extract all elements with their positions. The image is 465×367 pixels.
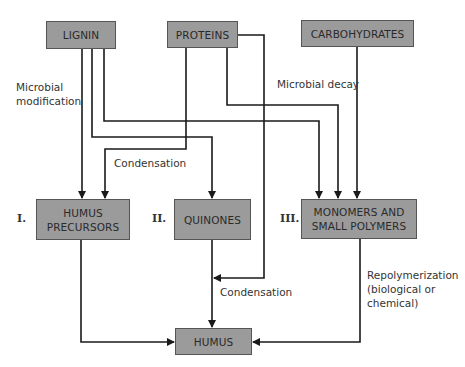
node-proteins-label: PROTEINS <box>176 28 229 42</box>
connector-lines <box>0 0 465 367</box>
label-microbial-modification-1: Microbial <box>16 80 81 94</box>
label-microbial-decay: Microbial decay <box>277 77 359 91</box>
node-carbohydrates-label: CARBOHYDRATES <box>311 27 405 41</box>
pathway-number-one: I. <box>17 212 26 225</box>
node-humus-precursors-label-1: HUMUS <box>63 206 103 220</box>
edge-proteins-to-humus-precursors <box>105 48 186 198</box>
node-monomers-label-1: MONOMERS AND <box>314 205 405 219</box>
label-condensation-lower: Condensation <box>220 285 292 299</box>
node-monomers-small-polymers: MONOMERS AND SMALL POLYMERS <box>301 199 417 239</box>
label-condensation-upper: Condensation <box>114 156 186 170</box>
edge-lignin-to-quinones <box>92 48 212 198</box>
edge-humus-precursors-to-humus <box>81 240 174 342</box>
node-humus-precursors: HUMUS PRECURSORS <box>36 199 130 240</box>
label-repolymerization-1: Repolymerization <box>367 268 459 282</box>
edge-proteins-to-monomers <box>227 48 338 198</box>
edge-proteins-to-condensation <box>214 35 264 278</box>
node-humus-precursors-label-2: PRECURSORS <box>47 220 119 234</box>
pathway-number-two: II. <box>152 212 166 225</box>
node-quinones-label: QUINONES <box>184 213 241 227</box>
label-repolymerization-3: chemical) <box>367 296 459 310</box>
label-microbial-modification-2: modification <box>16 94 81 108</box>
node-carbohydrates: CARBOHYDRATES <box>301 20 414 47</box>
label-microbial-modification: Microbial modification <box>16 80 81 108</box>
label-repolymerization-2: (biological or <box>367 282 459 296</box>
label-repolymerization: Repolymerization (biological or chemical… <box>367 268 459 310</box>
node-humus: HUMUS <box>175 328 252 355</box>
node-monomers-label-2: SMALL POLYMERS <box>312 219 406 233</box>
node-lignin: LIGNIN <box>46 21 116 49</box>
node-humus-label: HUMUS <box>194 335 234 349</box>
pathway-number-three: III. <box>280 212 299 225</box>
node-proteins: PROTEINS <box>167 21 238 48</box>
node-quinones: QUINONES <box>174 199 251 240</box>
node-lignin-label: LIGNIN <box>63 28 100 42</box>
